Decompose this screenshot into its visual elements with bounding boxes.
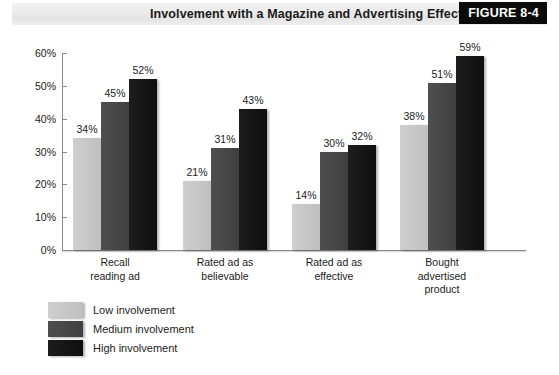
legend-label: Low involvement [93,304,175,316]
y-axis-tick [62,217,67,218]
y-axis-tick [62,152,67,153]
y-axis-tick-label: 50% [12,80,56,92]
y-axis-tick [62,250,67,251]
bar-value-label: 45% [104,87,125,99]
bar-value-label: 31% [214,133,235,145]
y-axis-tick-label: 20% [12,178,56,190]
legend-swatch [48,321,83,337]
category-label: Rated ad as believable [170,256,280,283]
legend-label: Medium involvement [93,323,194,335]
legend-swatch [48,340,83,356]
bar-value-label: 43% [242,94,263,106]
bar-value-label: 51% [431,68,452,80]
y-axis-tick-label: 10% [12,211,56,223]
legend-swatch [48,302,83,318]
bar[interactable]: 14% [292,204,320,250]
bar[interactable]: 51% [428,83,456,250]
bar-value-label: 30% [323,137,344,149]
bar-value-label: 32% [351,130,372,142]
bar-value-label: 14% [295,189,316,201]
bar[interactable]: 34% [73,138,101,250]
y-axis-tick-label: 60% [12,47,56,59]
bar-value-label: 21% [186,166,207,178]
legend-item[interactable]: Low involvement [48,300,194,319]
y-axis-tick-label: 0% [12,244,56,256]
bar[interactable]: 32% [348,145,376,250]
bar[interactable]: 21% [183,181,211,250]
bar-value-label: 34% [76,123,97,135]
bar[interactable]: 43% [239,109,267,250]
y-axis-tick-label: 40% [12,113,56,125]
category-label: Recall reading ad [60,256,170,283]
bar[interactable]: 52% [129,79,157,250]
legend-item[interactable]: Medium involvement [48,319,194,338]
legend-label: High involvement [93,342,177,354]
y-axis-tick [62,184,67,185]
y-axis-tick [62,86,67,87]
bar[interactable]: 31% [211,148,239,250]
y-axis-tick-label: 30% [12,146,56,158]
bar[interactable]: 30% [320,152,348,251]
bar[interactable]: 45% [101,102,129,250]
y-axis-tick [62,53,67,54]
bar-value-label: 52% [132,64,153,76]
y-axis-tick [62,119,67,120]
bar[interactable]: 59% [456,56,484,250]
chart-legend: Low involvementMedium involvementHigh in… [48,300,194,357]
bar-value-label: 38% [403,110,424,122]
category-label: Rated ad as effective [279,256,389,283]
bar-value-label: 59% [459,41,480,53]
bar[interactable]: 38% [400,125,428,250]
legend-item[interactable]: High involvement [48,338,194,357]
category-label: Bought advertised product [387,256,497,297]
x-axis-line [62,250,526,251]
